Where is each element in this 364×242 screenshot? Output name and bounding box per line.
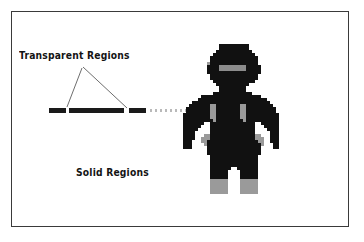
figure-border [11, 11, 349, 227]
label-transparent-regions: Transparent Regions [19, 51, 130, 61]
solid-segment-2 [69, 108, 124, 113]
robot-sprite [183, 44, 279, 194]
figure-root: Transparent Regions Solid Regions [0, 0, 364, 242]
solid-segment-3 [129, 108, 146, 113]
solid-segment-1 [49, 108, 66, 113]
label-solid-regions: Solid Regions [76, 168, 149, 178]
